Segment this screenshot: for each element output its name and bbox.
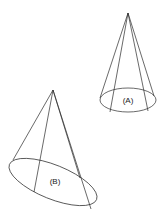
cone-a-label: (A) xyxy=(123,96,134,105)
cone-a-generator-outer-left xyxy=(100,13,128,98)
cone-a: (A) xyxy=(100,13,156,112)
cone-diagram: (A) (B) xyxy=(0,0,164,214)
cone-b-label: (B) xyxy=(50,177,61,186)
cone-b-generator-front-right xyxy=(53,90,91,209)
cone-a-generator-outer-right xyxy=(128,13,154,96)
cone-b-generator-outer-left xyxy=(13,90,53,160)
cone-b: (B) xyxy=(3,90,103,214)
